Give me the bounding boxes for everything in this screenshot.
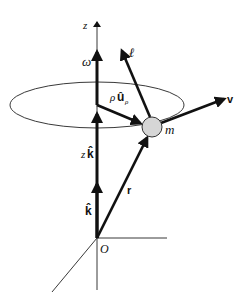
labels: z ω ℓ ρ û ρ v m z k̂ k̂ r O bbox=[80, 19, 234, 256]
particle-sphere bbox=[142, 117, 162, 137]
radial-vector bbox=[97, 105, 140, 123]
coordinate-axes bbox=[52, 22, 167, 292]
z-axis-label: z bbox=[82, 19, 88, 31]
k-hat-scaled-label: k̂ bbox=[87, 146, 94, 161]
omega-label: ω bbox=[82, 54, 91, 69]
velocity-label: v bbox=[227, 93, 234, 105]
position-label: r bbox=[127, 184, 132, 196]
angular-momentum-diagram: z ω ℓ ρ û ρ v m z k̂ k̂ r O bbox=[0, 0, 238, 299]
vectors bbox=[97, 51, 224, 238]
rho-label: ρ bbox=[109, 91, 115, 103]
z-k-hat-label: z k̂ bbox=[80, 146, 94, 161]
radial-unit-vector-label: ρ û ρ bbox=[109, 90, 129, 106]
z-coefficient-label: z bbox=[80, 148, 86, 160]
u-hat-label: û bbox=[117, 90, 124, 104]
velocity-vector bbox=[161, 99, 224, 123]
ell-label: ℓ bbox=[129, 45, 135, 60]
position-vector bbox=[97, 138, 147, 238]
k-hat-label: k̂ bbox=[85, 203, 92, 218]
mass-label: m bbox=[165, 122, 174, 137]
origin-label: O bbox=[100, 242, 109, 256]
x-axis-line bbox=[52, 238, 97, 292]
u-subscript-label: ρ bbox=[124, 98, 129, 106]
angular-momentum-vector bbox=[122, 51, 150, 117]
